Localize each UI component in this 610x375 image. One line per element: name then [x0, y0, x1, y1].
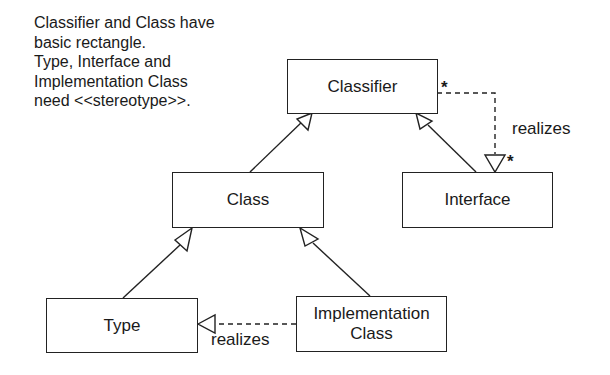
realizes-label-bottom: realizes [211, 330, 270, 350]
class-box[interactable]: Class [172, 172, 324, 228]
implementation-class-box[interactable]: Implementation Class [296, 296, 447, 352]
interface-label: Interface [444, 190, 510, 210]
generalization-class-classifier [250, 120, 304, 172]
hollow-triangle-arrowhead-icon [485, 155, 505, 172]
note-line: Implementation Class [34, 72, 215, 92]
class-label: Class [227, 190, 270, 210]
type-box[interactable]: Type [46, 298, 198, 353]
implementation-class-label-line2: Class [350, 324, 393, 344]
interface-box[interactable]: Interface [402, 172, 553, 228]
generalization-interface-classifier [428, 125, 476, 172]
classifier-box[interactable]: Classifier [287, 59, 438, 114]
hollow-triangle-arrowhead-icon [297, 113, 312, 130]
implementation-class-label-line1: Implementation [313, 304, 429, 324]
multiplicity-target: * [507, 153, 514, 170]
note-line: basic rectangle. [34, 33, 215, 53]
note-line: Type, Interface and [34, 52, 215, 72]
realization-classifier-interface [437, 93, 495, 154]
hollow-triangle-arrowhead-icon [300, 228, 318, 246]
multiplicity-source: * [441, 79, 448, 96]
diagram-note: Classifier and Class have basic rectangl… [34, 13, 215, 111]
generalization-implclass-class [313, 243, 370, 296]
note-line: Classifier and Class have [34, 13, 215, 33]
realizes-label-top: realizes [512, 119, 571, 139]
generalization-type-class [123, 245, 180, 298]
classifier-label: Classifier [328, 77, 398, 97]
type-label: Type [104, 316, 141, 336]
note-line: need <<stereotype>>. [34, 91, 215, 111]
